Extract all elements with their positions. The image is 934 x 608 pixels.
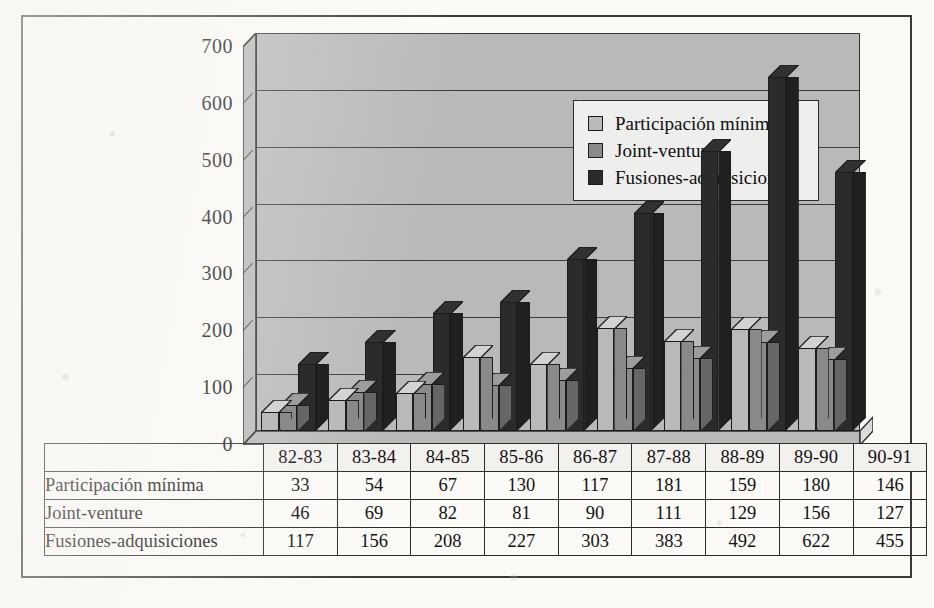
table-column-header: 86-87 [558, 444, 632, 472]
table-cell-value: 33 [264, 472, 338, 500]
y-axis-tick-label: 100 [202, 376, 234, 399]
table-column-header: 82-83 [264, 444, 338, 472]
table-header-row: 82-8383-8484-8585-8686-8787-8888-8989-90… [45, 444, 927, 472]
y-axis-tick-label: 500 [202, 148, 234, 171]
bar-side-face [383, 342, 396, 431]
table-cell-value: 81 [485, 500, 559, 528]
gridline [256, 33, 860, 34]
legend-label: Participación mínima [615, 114, 778, 133]
bar-top-face [396, 380, 427, 393]
table-column-header: 85-86 [485, 444, 559, 472]
y-axis-tick-label: 300 [202, 262, 234, 285]
bar-side-face [584, 259, 597, 431]
table-row: Joint-venture4669828190111129156127 [45, 500, 927, 528]
bar-front-face [463, 357, 481, 431]
table-row-label: Participación mínima [45, 472, 264, 500]
bar-top-face [365, 329, 396, 342]
table-cell-value: 159 [706, 472, 780, 500]
table-cell-value: 130 [485, 472, 559, 500]
gridline-3d-connector [243, 93, 253, 104]
bar-top-face [835, 159, 866, 172]
table-cell-value: 180 [779, 472, 853, 500]
bar-top-face [768, 64, 799, 77]
bar-front-face [597, 328, 615, 431]
table-cell-value: 90 [558, 500, 632, 528]
bar-top-face [597, 315, 628, 328]
table-row: Fusiones-adquisiciones117156208227303383… [45, 528, 927, 556]
bar-top-face [500, 289, 531, 302]
bar-top-face [530, 351, 561, 364]
bar-side-face [480, 357, 493, 431]
table-cell-value: 383 [632, 528, 706, 556]
bar-top-face [664, 328, 695, 341]
bar-top-face [731, 316, 762, 329]
bar-side-face [767, 342, 780, 431]
legend-swatch-fusiones-adquisiciones [588, 170, 603, 185]
bar-side-face [816, 348, 829, 431]
table-cell-value: 54 [337, 472, 411, 500]
y-axis-tick-label: 400 [202, 205, 234, 228]
table-cell-value: 67 [411, 472, 485, 500]
table-cell-value: 181 [632, 472, 706, 500]
gridline-3d-connector [243, 263, 253, 274]
y-axis-tick-label: 600 [202, 91, 234, 114]
table-cell-value: 622 [779, 528, 853, 556]
bar-front-face [261, 412, 279, 431]
gridline-3d-connector [243, 377, 253, 388]
legend-swatch-participacion-minima [588, 116, 603, 131]
table-cell-value: 146 [853, 472, 927, 500]
table-column-header: 89-90 [779, 444, 853, 472]
bar-top-face [634, 200, 665, 213]
table-cell-value: 69 [337, 500, 411, 528]
bar-top-face [298, 351, 329, 364]
table-cell-value: 129 [706, 500, 780, 528]
bar-top-face [433, 300, 464, 313]
gridline-3d-connector [243, 150, 253, 161]
bar-top-face [701, 138, 732, 151]
bar-front-face [798, 348, 816, 431]
bar-top-face [261, 399, 292, 412]
table-cell-value: 227 [485, 528, 559, 556]
y-axis-tick-label: 700 [202, 35, 234, 58]
table-cell-value: 303 [558, 528, 632, 556]
table-column-header: 90-91 [853, 444, 927, 472]
bar-side-face [517, 302, 530, 431]
chart-page: 0100200300400500600700 Participación mín… [0, 0, 934, 608]
table-row: Participación mínima33546713011718115918… [45, 472, 927, 500]
bar-side-face [853, 172, 866, 431]
table-corner-cell [45, 444, 264, 472]
table-cell-value: 208 [411, 528, 485, 556]
bar-top-face [798, 335, 829, 348]
bar-side-face [681, 341, 694, 431]
bar-front-face [328, 400, 346, 431]
bar-side-face [786, 77, 799, 431]
bar-front-face [396, 393, 414, 431]
table-cell-value: 82 [411, 500, 485, 528]
bar-front-face [731, 329, 749, 431]
table-cell-value: 46 [264, 500, 338, 528]
table-column-header: 83-84 [337, 444, 411, 472]
gridline-3d-connector [243, 36, 253, 47]
bar-front-face [530, 364, 548, 431]
table-body: Participación mínima33546713011718115918… [45, 472, 927, 556]
bar-side-face [450, 313, 463, 431]
gridline-3d-connector [243, 206, 253, 217]
table-row-label: Joint-venture [45, 500, 264, 528]
table-cell-value: 492 [706, 528, 780, 556]
bar-chart: 0100200300400500600700 Participación mín… [243, 33, 873, 445]
table-column-header: 88-89 [706, 444, 780, 472]
data-table: 82-8383-8484-8585-8686-8787-8888-8989-90… [44, 443, 844, 556]
bar-side-face [749, 329, 762, 431]
table-cell-value: 127 [853, 500, 927, 528]
bar-top-face [463, 344, 494, 357]
bar-front-face [664, 341, 682, 431]
table-column-header: 87-88 [632, 444, 706, 472]
bar-top-face [328, 387, 359, 400]
table-cell-value: 156 [779, 500, 853, 528]
gridline-3d-connector [243, 320, 253, 331]
bar-top-face [567, 246, 598, 259]
legend-swatch-joint-venture [588, 143, 603, 158]
bar-side-face [651, 213, 664, 431]
table-cell-value: 117 [264, 528, 338, 556]
table-cell-value: 111 [632, 500, 706, 528]
